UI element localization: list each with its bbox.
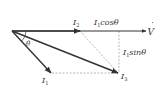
label-i1-sin: I1sinθ	[122, 48, 146, 58]
label-i3: I3	[120, 72, 127, 82]
label-v: V	[148, 27, 156, 37]
label-theta: θ	[26, 40, 31, 48]
guide-i2-to-i3	[80, 31, 118, 73]
label-i2: I2	[72, 18, 79, 28]
phasor-diagram: ˙ V I2 I1cosθ I1sinθ θ I1 I3	[0, 0, 164, 92]
label-i1: I1	[41, 76, 48, 86]
vector-i3	[12, 31, 118, 73]
label-i1-cos: I1cosθ	[93, 18, 119, 28]
vector-i1	[12, 31, 51, 73]
